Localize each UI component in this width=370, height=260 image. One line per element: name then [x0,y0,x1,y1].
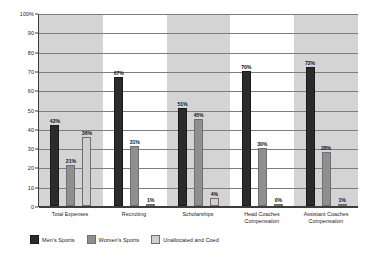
legend-label: Unallocated and Coed [163,237,218,243]
x-axis-label: Assistant Coaches Compensation [294,209,358,231]
bar-groups: 42%21%36%67%31%1%51%45%4%70%30%0%72%28%1… [39,14,358,206]
bar[interactable]: 21% [66,165,75,206]
bar-slot: 4% [210,14,219,206]
bar-slot: 45% [194,14,203,206]
bar-value-label: 1% [147,197,154,203]
legend-item[interactable]: Men's Sports [30,235,75,244]
bar-value-label: 4% [211,191,218,197]
legend-label: Women's Sports [99,237,140,243]
bar[interactable]: 1% [338,204,347,206]
chart-legend: Men's SportsWomen's SportsUnallocated an… [30,235,219,244]
bar-value-label: 42% [50,118,60,124]
bar-value-label: 45% [193,112,203,118]
y-tick-label: 50 [28,108,34,114]
x-axis-label: Scholarships [166,209,230,231]
legend-swatch-icon [30,235,39,244]
grouped-bar-chart: 0102030405060708090100% 42%21%36%67%31%1… [0,0,370,260]
bar-value-label: 70% [241,64,251,70]
bar[interactable]: 28% [322,152,331,206]
bar-slot: 0% [274,14,283,206]
y-tick-label: 100% [20,11,34,17]
bar-slot: 30% [258,14,267,206]
y-tick-label: 20 [28,165,34,171]
bar-value-label: 72% [305,60,315,66]
bar[interactable]: 36% [82,137,91,206]
bar-slot: 51% [178,14,187,206]
x-axis-label: Recruiting [102,209,166,231]
gridline [39,207,358,208]
bar-slot: 72% [306,14,315,206]
y-tick-label: 60 [28,88,34,94]
bar[interactable]: 42% [50,125,59,206]
x-axis-labels: Total ExpensesRecruitingScholarshipsHead… [38,209,358,231]
plot-area: 42%21%36%67%31%1%51%45%4%70%30%0%72%28%1… [38,14,358,207]
bar-slot: 1% [338,14,347,206]
bar[interactable]: 4% [210,198,219,206]
bar-group: 72%28%1% [294,14,358,206]
bar-slot: 42% [50,14,59,206]
bar-value-label: 51% [177,101,187,107]
y-tick-label: 10 [28,185,34,191]
y-tick-label: 90 [28,30,34,36]
y-tick-label: 30 [28,146,34,152]
legend-item[interactable]: Women's Sports [87,235,140,244]
bar-value-label: 31% [130,139,140,145]
y-tick-label: 80 [28,50,34,56]
x-axis-label: Head Coaches Compensation [230,209,294,231]
bar-value-label: 1% [338,197,345,203]
bar-slot: 31% [130,14,139,206]
bar-slot: 21% [66,14,75,206]
bar-value-label: 30% [257,141,267,147]
bar[interactable]: 45% [194,119,203,206]
bar-group: 70%30%0% [230,14,294,206]
y-tick-label: 0 [31,204,34,210]
bar-value-label: 21% [66,158,76,164]
y-tick-label: 70 [28,69,34,75]
bar-slot: 28% [322,14,331,206]
x-axis-label: Total Expenses [38,209,102,231]
legend-swatch-icon [151,235,160,244]
legend-label: Men's Sports [42,237,75,243]
bar-slot: 1% [146,14,155,206]
y-tick-label: 40 [28,127,34,133]
bar-group: 67%31%1% [103,14,167,206]
bar[interactable]: 70% [242,71,251,206]
bar[interactable]: 30% [258,148,267,206]
bar-value-label: 28% [321,145,331,151]
bar-value-label: 36% [82,130,92,136]
y-axis: 0102030405060708090100% [0,14,38,207]
bar-slot: 67% [114,14,123,206]
bar-group: 42%21%36% [39,14,103,206]
bar-slot: 36% [82,14,91,206]
bar[interactable]: 51% [178,108,187,206]
bar-slot: 70% [242,14,251,206]
legend-swatch-icon [87,235,96,244]
bar[interactable]: 1% [146,204,155,206]
bar[interactable]: 72% [306,67,315,206]
legend-item[interactable]: Unallocated and Coed [151,235,218,244]
bar[interactable]: 31% [130,146,139,206]
bar-value-label: 67% [114,70,124,76]
bar[interactable]: 67% [114,77,123,206]
bar-value-label: 0% [275,197,282,203]
bar[interactable]: 0% [274,204,283,206]
bar-group: 51%45%4% [167,14,231,206]
